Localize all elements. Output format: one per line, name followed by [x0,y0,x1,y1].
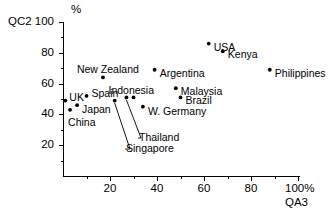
data-point-label: Indonesia [109,85,155,96]
y-tick-label: 60 [28,78,54,89]
y-tick-label: 40 [28,108,54,119]
data-point [174,86,178,90]
data-point [113,99,117,103]
data-point [153,68,157,72]
data-point-label: UK [69,92,84,103]
data-point-label: Philippines [275,68,326,79]
data-point-label: Brazil [186,95,212,106]
data-point [85,94,89,98]
x-tick-label: 40 [142,183,172,194]
x-tick-label: 20 [95,183,125,194]
data-point-label: Argentina [160,68,205,79]
data-point-label: China [68,117,95,128]
data-point-label: Kenya [228,49,258,60]
y-axis-unit: % [71,4,81,15]
x-tick-label: 60 [189,183,219,194]
data-point [68,108,72,112]
x-tick-label: 100% [285,183,325,194]
data-point-label: Thailand [139,132,179,143]
data-point-label: New Zealand [77,64,139,75]
data-point [141,105,145,109]
scatter-chart: % QC2 QA3 2040608010020406080100%UKChina… [0,0,330,214]
data-point-label: W. Germany [148,106,206,117]
data-point [207,42,211,46]
y-tick-label: 100 [28,16,54,27]
y-tick-label: 20 [28,139,54,150]
data-point [75,103,79,107]
data-point [101,76,105,80]
data-point-label: Japan [82,104,111,115]
data-point-label: Singapore [126,143,174,154]
data-point [63,99,67,103]
x-axis-title: QA3 [285,197,308,208]
data-point [268,68,272,72]
axis-ticks [59,23,299,182]
y-tick-label: 80 [28,47,54,58]
axes [64,22,301,177]
x-tick-label: 80 [236,183,266,194]
